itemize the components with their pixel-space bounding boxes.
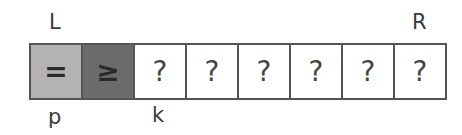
array-cell-greater-equal: ≥: [81, 45, 133, 98]
left-pointer-label: L: [49, 12, 61, 33]
array-cell-unknown: ?: [133, 45, 185, 98]
partition-array: = ≥ ? ? ? ? ? ?: [29, 43, 447, 100]
right-pointer-label: R: [412, 12, 427, 33]
k-pointer-label: k: [152, 105, 164, 126]
array-cell-unknown: ?: [341, 45, 393, 98]
p-pointer-label: p: [48, 107, 61, 128]
array-cell-unknown: ?: [289, 45, 341, 98]
array-cell-unknown: ?: [237, 45, 289, 98]
array-cell-unknown: ?: [185, 45, 237, 98]
array-cell-unknown: ?: [393, 45, 445, 98]
array-cell-equal: =: [31, 45, 81, 98]
